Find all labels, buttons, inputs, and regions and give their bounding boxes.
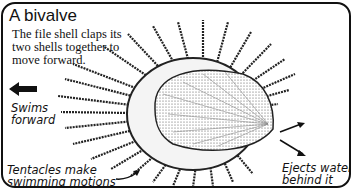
tentacles-label: Tentacles make swimming motions [7, 164, 122, 188]
water-jet-arrow-icon [280, 124, 303, 154]
diagram-frame: A bivalve The file shell claps its two s… [1, 2, 351, 188]
swims-forward-label: Swims forward [11, 102, 71, 126]
left-arrow-icon [9, 82, 37, 96]
ejects-water-label: Ejects water behind it [282, 162, 351, 186]
